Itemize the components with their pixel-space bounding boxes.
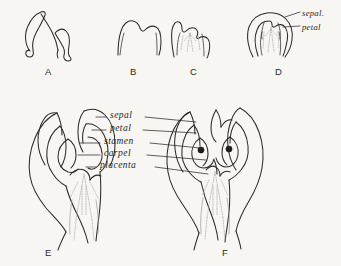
label-leader-lines [78, 117, 208, 174]
callout-d-petal: petal [302, 22, 321, 32]
label-carpel: carpel [104, 148, 131, 158]
botanical-figure: sepal. petal sepal petal stamen carpel p… [0, 0, 341, 266]
panel-b-drawing [118, 21, 161, 55]
panel-c-drawing [172, 22, 210, 58]
label-stamen: stamen [104, 136, 134, 146]
panel-letter-d: D [275, 66, 282, 77]
panel-e-drawing [29, 109, 115, 250]
callout-d-sepal: sepal. [302, 8, 324, 18]
panel-letter-a: A [45, 66, 52, 77]
figure-drawing [0, 0, 341, 266]
label-petal: petal [110, 123, 131, 133]
panel-letter-e: E [45, 247, 52, 258]
panel-letter-b: B [130, 66, 137, 77]
panel-letter-c: C [190, 66, 197, 77]
panel-f-drawing [167, 108, 263, 250]
panel-a-drawing [26, 12, 72, 61]
panel-d-drawing [248, 12, 300, 57]
panel-letter-f: F [222, 247, 228, 258]
label-sepal: sepal [110, 110, 132, 120]
label-placenta: placenta [100, 160, 136, 170]
